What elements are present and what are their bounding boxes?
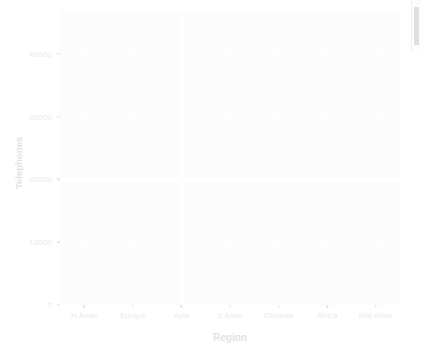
- x-tick-label: Europe: [120, 311, 145, 320]
- gridline-major-vertical: [133, 10, 134, 305]
- vertical-scrollbar-track[interactable]: [411, 0, 421, 52]
- y-tick-mark: [57, 242, 60, 243]
- y-tick-label: 30000: [0, 112, 52, 121]
- y-tick-label: 10000: [0, 238, 52, 247]
- x-tick-mark: [229, 305, 230, 308]
- x-tick-label: Asia: [174, 311, 189, 320]
- plot-panel: [60, 10, 400, 305]
- x-tick-label: N.Amer: [71, 311, 98, 320]
- y-axis-title: Telephones: [13, 137, 24, 189]
- x-tick-mark: [375, 305, 376, 308]
- gridline-major-vertical: [327, 10, 328, 305]
- x-tick-mark: [181, 305, 182, 308]
- gridline-major-vertical: [279, 10, 280, 305]
- y-tick-label: 40000: [0, 49, 52, 58]
- x-axis-title: Region: [213, 332, 247, 343]
- x-tick-label: S.Amer: [217, 311, 243, 320]
- vertical-scrollbar-thumb[interactable]: [414, 7, 419, 45]
- y-tick-mark: [57, 304, 60, 305]
- plot-faded-layer: 400003000020000100000 N.AmerEuropeAsiaS.…: [0, 0, 421, 360]
- y-tick-mark: [57, 179, 60, 180]
- y-tick-mark: [57, 116, 60, 117]
- x-tick-mark: [84, 305, 85, 308]
- y-tick-label: 0: [0, 301, 52, 310]
- y-tick-label: 20000: [0, 175, 52, 184]
- gridline-major-vertical: [376, 10, 377, 305]
- gridline-major-vertical: [84, 10, 85, 305]
- x-tick-mark: [326, 305, 327, 308]
- x-tick-label: Africa: [317, 311, 337, 320]
- y-tick-mark: [57, 53, 60, 54]
- x-tick-mark: [278, 305, 279, 308]
- x-tick-mark: [132, 305, 133, 308]
- chart-container: 400003000020000100000 N.AmerEuropeAsiaS.…: [0, 0, 421, 360]
- gridline-major-vertical: [181, 10, 182, 305]
- x-tick-label: Mid.Amer: [359, 311, 393, 320]
- x-tick-label: Oceania: [264, 311, 293, 320]
- gridline-major-vertical: [230, 10, 231, 305]
